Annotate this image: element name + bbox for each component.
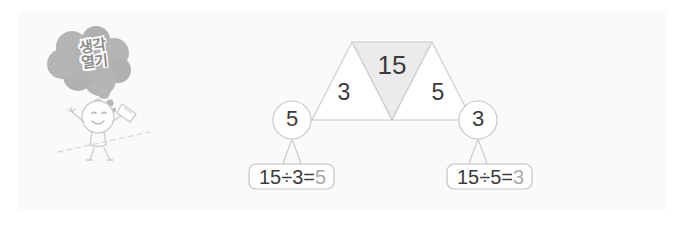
child-character-icon [58,99,150,160]
worksheet-page: 생각 열기 15 3 5 5 3 15÷3=5 15÷5=3 [0,0,690,231]
right-callout-tail [468,139,488,166]
right-equation-expression: 15÷5= [457,166,513,188]
right-equation-text: 15÷5=3 [457,168,523,187]
right-circle-value: 3 [463,108,493,130]
left-equation-answer: 5 [315,166,326,188]
left-equation-text: 15÷3=5 [259,168,325,187]
left-callout-tail [282,139,302,166]
left-equation-expression: 15÷3= [259,166,315,188]
right-triangle-value: 5 [424,81,452,104]
left-circle-value: 5 [277,108,307,130]
middle-triangle-value: 15 [362,52,422,78]
left-triangle-value: 3 [330,81,358,104]
right-equation-answer: 3 [513,166,524,188]
